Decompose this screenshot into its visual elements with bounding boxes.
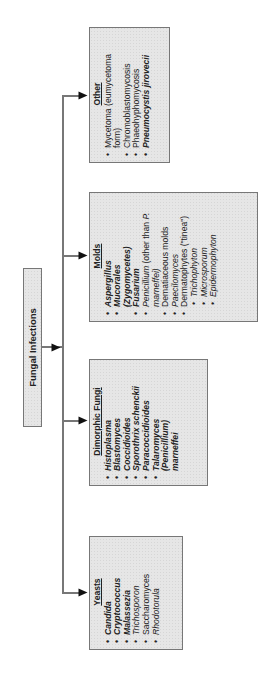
dimorphic-list: Histoplasma Blastomyces Coccidioides Spo…	[104, 364, 181, 479]
category-heading-other: Other	[93, 32, 103, 156]
root-label: Fungal Infections	[27, 308, 38, 387]
category-box-yeasts: Yeasts Candida Cryptococcus Malassezia T…	[89, 536, 183, 650]
list-subitem: Epidermophyton	[209, 197, 219, 315]
category-box-molds: Molds Aspergillus Mucorales (Zygomycetes…	[89, 192, 258, 322]
category-heading-yeasts: Yeasts	[93, 541, 103, 643]
penicillium-text: Penicillium	[141, 266, 151, 307]
yeasts-list: Candida Cryptococcus Malassezia Trichosp…	[104, 541, 162, 643]
other-than-text: (other than	[141, 220, 151, 266]
arrow-molds-icon	[79, 252, 88, 260]
arrow-yeasts-icon	[79, 589, 88, 597]
arrow-other-icon	[79, 92, 88, 100]
category-box-other: Other Mycetoma (eumycetoma form) Chromob…	[89, 27, 170, 163]
other-list: Mycetoma (eumycetoma form) Chromoblastom…	[104, 32, 152, 156]
category-heading-molds: Molds	[93, 197, 103, 315]
p-text: P.	[141, 213, 151, 220]
list-item: Pneumocystis jirovecii	[142, 32, 152, 156]
molds-list: Aspergillus Mucorales (Zygomycetes) Fusa…	[104, 197, 219, 315]
category-box-dimorphic-fungi: Dimorphic Fungi Histoplasma Blastomyces …	[89, 359, 208, 486]
trunk-line	[62, 95, 64, 593]
list-item: Rhodotorula	[152, 541, 162, 643]
root-arrow-icon	[52, 344, 61, 352]
list-item-continuation: marneffei	[171, 364, 181, 479]
category-heading-dimorphic: Dimorphic Fungi	[93, 364, 103, 479]
fungal-infections-diagram: Fungal Infections Yeasts Candida Cryptoc…	[0, 0, 264, 689]
arrow-dimorphic-icon	[79, 417, 88, 425]
root-box-fungal-infections: Fungal Infections	[23, 268, 42, 427]
